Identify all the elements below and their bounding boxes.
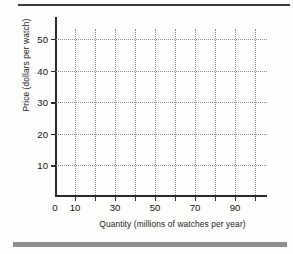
y-axis-tick-label: 40 bbox=[37, 65, 48, 76]
vertical-gridline bbox=[135, 29, 136, 197]
x-axis-tick-mark bbox=[115, 196, 116, 201]
y-axis-tick-label: 10 bbox=[37, 160, 48, 171]
x-axis-tick-mark bbox=[135, 196, 136, 201]
y-axis-tick-mark bbox=[51, 39, 56, 40]
figure-container: Price (dollars per watch) 10203040500103… bbox=[0, 0, 293, 254]
vertical-gridline bbox=[95, 29, 96, 197]
vertical-gridline bbox=[115, 29, 116, 197]
y-axis-tick-mark bbox=[51, 71, 56, 72]
x-axis-tick-label: 70 bbox=[190, 202, 201, 213]
x-axis-tick-mark bbox=[235, 196, 236, 201]
x-axis-tick-mark bbox=[95, 196, 96, 201]
y-axis-tick-mark bbox=[51, 102, 56, 103]
vertical-gridline bbox=[235, 29, 236, 197]
y-axis-tick-label: 30 bbox=[37, 97, 48, 108]
vertical-gridline bbox=[75, 29, 76, 197]
top-rule-divider bbox=[18, 4, 290, 6]
y-axis-tick-mark bbox=[51, 134, 56, 135]
x-axis-tick-mark bbox=[155, 196, 156, 201]
x-axis-tick-label: 30 bbox=[110, 202, 121, 213]
y-axis-line bbox=[55, 17, 57, 197]
plot-wrapper: Price (dollars per watch) 10203040500103… bbox=[0, 12, 293, 240]
y-axis-tick-label: 50 bbox=[37, 34, 48, 45]
x-axis-tick-mark bbox=[75, 196, 76, 201]
vertical-gridline bbox=[155, 29, 156, 197]
x-axis-tick-label: 10 bbox=[70, 202, 81, 213]
bottom-rule-divider bbox=[13, 242, 287, 247]
x-axis-tick-label: 50 bbox=[150, 202, 161, 213]
y-axis-tick-mark bbox=[51, 165, 56, 166]
x-axis-tick-mark bbox=[195, 196, 196, 201]
x-axis-tick-mark bbox=[255, 196, 256, 201]
x-axis-tick-label: 0 bbox=[52, 202, 57, 213]
x-axis-tick-mark bbox=[175, 196, 176, 201]
y-axis-label: Price (dollars per watch) bbox=[21, 5, 31, 125]
vertical-gridline bbox=[195, 29, 196, 197]
plot-axes-area: 102030405001030507090 bbox=[55, 17, 267, 197]
vertical-gridline bbox=[175, 29, 176, 197]
x-axis-tick-label: 90 bbox=[230, 202, 241, 213]
x-axis-tick-mark bbox=[215, 196, 216, 201]
vertical-gridline bbox=[255, 29, 256, 197]
x-axis-label: Quantity (millions of watches per year) bbox=[60, 219, 285, 229]
y-axis-tick-label: 20 bbox=[37, 128, 48, 139]
vertical-gridline bbox=[215, 29, 216, 197]
